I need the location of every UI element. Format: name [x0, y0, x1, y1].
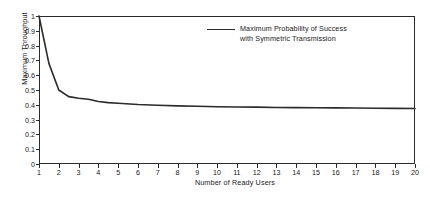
- x-tick-mark: [375, 164, 376, 168]
- x-tick-label: 3: [77, 168, 81, 177]
- x-tick-mark: [138, 164, 139, 168]
- chart-legend: Maximum Probability of Success with Symm…: [207, 24, 347, 43]
- y-tick-label: 0.6: [25, 71, 35, 80]
- legend-label: Maximum Probability of Success with Symm…: [240, 24, 347, 43]
- x-tick-label: 13: [272, 168, 280, 177]
- y-tick-label: 0: [31, 160, 35, 169]
- x-tick-mark: [336, 164, 337, 168]
- x-tick-mark: [217, 164, 218, 168]
- x-tick-label: 15: [312, 168, 320, 177]
- x-tick-mark: [197, 164, 198, 168]
- y-tick-label: 0.1: [25, 145, 35, 154]
- x-tick-label: 14: [292, 168, 300, 177]
- x-tick-mark: [276, 164, 277, 168]
- x-tick-label: 16: [332, 168, 340, 177]
- x-tick-mark: [158, 164, 159, 168]
- y-tick-label: 0.7: [25, 56, 35, 65]
- x-tick-label: 5: [116, 168, 120, 177]
- y-tick-label: 0.3: [25, 115, 35, 124]
- y-tick-label: 1: [31, 12, 35, 21]
- x-tick-mark: [39, 164, 40, 168]
- x-tick-mark: [118, 164, 119, 168]
- x-tick-label: 19: [391, 168, 399, 177]
- x-tick-label: 12: [253, 168, 261, 177]
- y-tick-label: 0.8: [25, 41, 35, 50]
- x-tick-label: 7: [156, 168, 160, 177]
- legend-line-swatch: [207, 29, 235, 30]
- y-tick-label: 0.5: [25, 86, 35, 95]
- x-tick-mark: [257, 164, 258, 168]
- y-tick-label: 0.4: [25, 100, 35, 109]
- x-tick-label: 11: [233, 168, 240, 177]
- x-tick-mark: [415, 164, 416, 168]
- x-tick-label: 17: [352, 168, 360, 177]
- chart-figure: Maximum Throughput Number of Ready Users…: [0, 0, 430, 202]
- x-tick-mark: [98, 164, 99, 168]
- x-tick-label: 9: [195, 168, 199, 177]
- y-tick-label: 0.2: [25, 130, 35, 139]
- x-axis-title: Number of Ready Users: [40, 178, 430, 187]
- x-tick-mark: [356, 164, 357, 168]
- x-tick-mark: [316, 164, 317, 168]
- y-tick-label: 0.9: [25, 26, 35, 35]
- x-tick-label: 8: [176, 168, 180, 177]
- x-tick-label: 1: [37, 168, 41, 177]
- x-tick-mark: [395, 164, 396, 168]
- x-tick-label: 18: [371, 168, 379, 177]
- x-tick-mark: [79, 164, 80, 168]
- x-tick-mark: [296, 164, 297, 168]
- x-tick-label: 10: [213, 168, 221, 177]
- x-tick-label: 2: [57, 168, 61, 177]
- x-tick-mark: [59, 164, 60, 168]
- x-tick-mark: [237, 164, 238, 168]
- legend-label-line2: with Symmetric Transmission: [240, 34, 336, 43]
- x-tick-label: 6: [136, 168, 140, 177]
- legend-label-line1: Maximum Probability of Success: [240, 24, 347, 33]
- x-tick-label: 4: [96, 168, 100, 177]
- plot-area: 00.10.20.30.40.50.60.70.80.91 1234567891…: [39, 16, 415, 164]
- x-tick-label: 20: [411, 168, 419, 177]
- x-tick-mark: [178, 164, 179, 168]
